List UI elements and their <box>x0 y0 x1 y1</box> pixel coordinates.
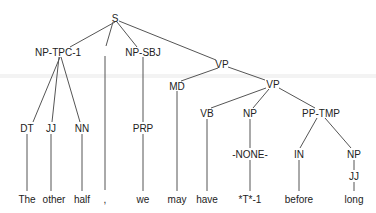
tree-leaf-word: we <box>136 194 150 205</box>
tree-leaf-word: *T*-1 <box>239 194 262 205</box>
tree-edge <box>70 22 115 47</box>
tree-node-pptmp: PP-TMP <box>302 108 340 119</box>
tree-leaf-word: long <box>345 194 364 205</box>
tree-node-none: -NONE- <box>232 149 268 160</box>
tree-node-prp: PRP <box>133 123 154 134</box>
tree-leaf-word: before <box>285 194 314 205</box>
tree-node-dt: DT <box>20 123 33 134</box>
tree-node-np3: NP <box>347 149 361 160</box>
tree-leaf-word: may <box>168 194 187 205</box>
tree-node-vp1: VP <box>215 59 229 70</box>
tree-edge <box>117 22 137 47</box>
tree-leaves: Theotherhalf,wemayhave*T*-1beforelong <box>18 194 363 205</box>
tree-leaf-word: , <box>104 194 107 205</box>
tree-node-in: IN <box>294 149 304 160</box>
parse-tree: SNP-TPC-1NP-SBJVPMDVPDTJJNNPRPVBNPPP-TMP… <box>0 0 376 213</box>
tree-node-vp2: VP <box>266 79 280 90</box>
tree-nodes: SNP-TPC-1NP-SBJVPMDVPDTJJNNPRPVBNPPP-TMP… <box>20 13 361 182</box>
tree-edge <box>300 118 317 148</box>
tree-edge <box>279 88 315 108</box>
tree-node-md: MD <box>169 81 185 92</box>
tree-node-npsbj: NP-SBJ <box>125 47 161 58</box>
tree-edge <box>61 57 80 122</box>
tree-node-nn: NN <box>75 123 89 134</box>
tree-edge <box>325 118 351 148</box>
tree-edge <box>211 88 266 108</box>
tree-leaf-word: The <box>18 194 36 205</box>
tree-leaf-word: half <box>74 194 90 205</box>
tree-node-np2: NP <box>243 108 257 119</box>
tree-node-jj1: JJ <box>46 123 56 134</box>
tree-node-vb: VB <box>200 108 214 119</box>
tree-node-nptpc: NP-TPC-1 <box>35 47 82 58</box>
tree-edge <box>228 67 265 80</box>
tree-leaf-word: other <box>43 194 66 205</box>
tree-node-s: S <box>112 13 119 24</box>
tree-node-jj2: JJ <box>349 171 359 182</box>
tree-leaf-word: have <box>196 194 218 205</box>
